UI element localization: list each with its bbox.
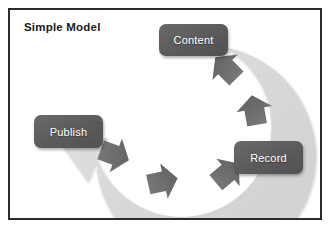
node-publish[interactable]: Publish <box>34 115 103 148</box>
node-record[interactable]: Record <box>234 141 303 174</box>
chevron-4-icon <box>145 161 182 202</box>
node-record-label: Record <box>250 152 287 164</box>
node-publish-label: Publish <box>50 126 87 138</box>
flow-chevrons <box>95 45 275 203</box>
diagram-canvas: Simple Model Content Record Publish <box>10 10 320 218</box>
diagram-frame: Simple Model Content Record Publish <box>8 8 322 220</box>
screenshot-root: Simple Model Content Record Publish <box>0 0 334 237</box>
page-title: Simple Model <box>24 21 101 33</box>
node-content-label: Content <box>174 34 214 46</box>
node-content[interactable]: Content <box>159 24 228 56</box>
